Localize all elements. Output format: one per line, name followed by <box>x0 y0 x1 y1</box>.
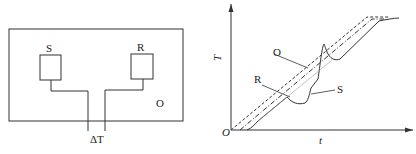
temperature-graph <box>229 4 414 133</box>
sample-label: S <box>46 42 52 54</box>
reference-label: R <box>137 41 145 53</box>
apparatus-schematic <box>9 29 183 131</box>
sample-baseline <box>258 60 332 121</box>
callout-line-S <box>311 90 335 94</box>
y-axis-arrow-icon <box>229 4 234 12</box>
sample-holder <box>40 55 61 80</box>
callout-label-R: R <box>254 73 262 85</box>
curve-sample-S <box>247 18 399 130</box>
x-axis-label: t <box>319 134 323 146</box>
delta-t-label: ΔT <box>90 133 104 145</box>
callout-label-O: O <box>273 46 281 58</box>
reference-holder <box>131 54 153 79</box>
sample-thermocouple-wire <box>51 80 88 131</box>
callout-label-S: S <box>337 83 343 95</box>
reference-thermocouple-wire <box>105 79 143 131</box>
x-axis-arrow-icon <box>405 128 413 133</box>
origin-label: O <box>222 126 230 138</box>
curve-reference-R <box>240 19 384 130</box>
furnace-label: O <box>156 97 164 109</box>
y-axis-label: T <box>211 54 223 61</box>
dta-diagram: S R O ΔT O R S O t T <box>0 0 416 154</box>
